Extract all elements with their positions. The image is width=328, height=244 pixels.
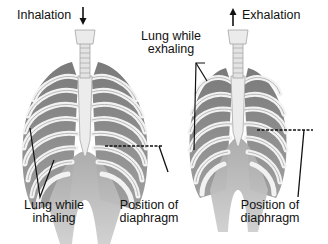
lung-exhaling-line2: exhaling — [132, 43, 210, 56]
arrow-up-icon — [230, 8, 237, 26]
larynx-exhaling — [228, 30, 248, 44]
trachea-inhaling — [80, 42, 90, 78]
lung-inhaling-label: Lung while inhaling — [18, 199, 90, 225]
sternum-exhaling — [231, 76, 245, 146]
lung-inhaling-line2: inhaling — [18, 212, 90, 225]
larynx-inhaling — [75, 30, 95, 44]
diaphragm-exhaling-label: Position of diaphragm — [234, 199, 306, 225]
inhalation-label: Inhalation — [17, 9, 71, 22]
arrow-down-icon — [80, 7, 87, 25]
diaphragm-inhaling-line2: diaphragm — [113, 212, 185, 225]
sternum-inhaling — [78, 76, 92, 156]
lung-exhaling-label: Lung while exhaling — [132, 30, 210, 56]
diaphragm-inhaling-label: Position of diaphragm — [113, 199, 185, 225]
diaphragm-exhaling-line2: diaphragm — [234, 212, 306, 225]
exhalation-label: Exhalation — [242, 9, 300, 22]
trachea-exhaling — [233, 42, 243, 78]
